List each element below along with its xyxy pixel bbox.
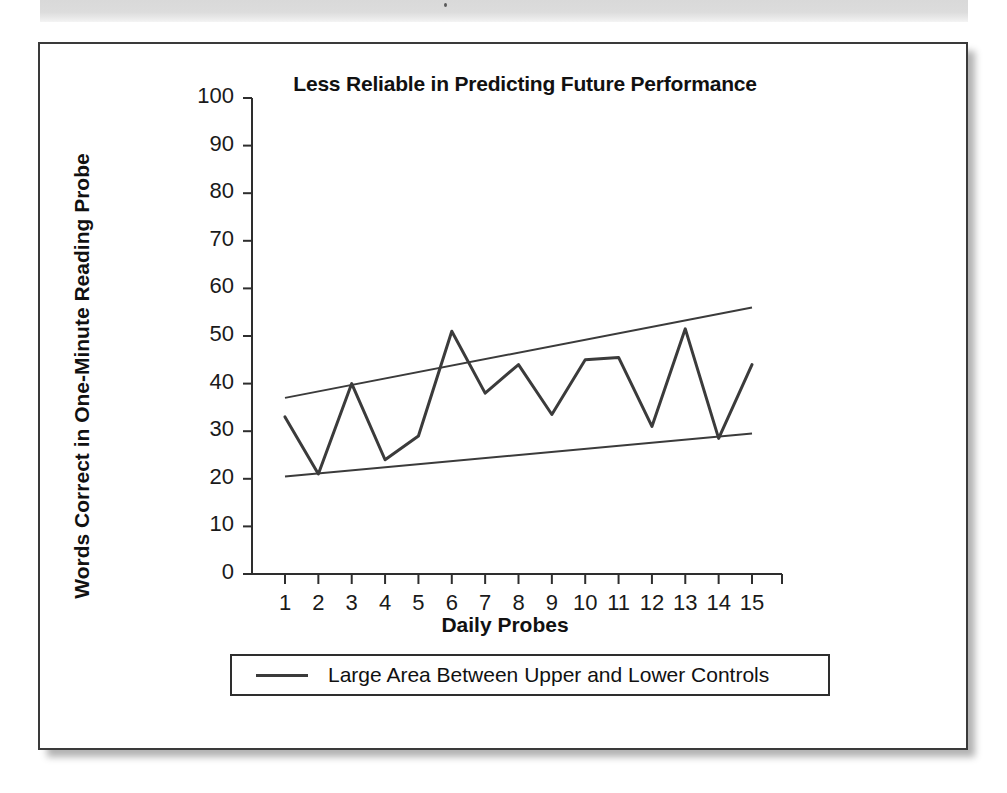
y-tick-label: 50	[174, 321, 234, 347]
axis-group	[252, 98, 782, 574]
y-axis-title: Words Correct in One-Minute Reading Prob…	[70, 126, 94, 626]
legend-line-swatch-icon	[256, 674, 308, 677]
y-tick-label: 40	[174, 369, 234, 395]
scan-speck	[444, 3, 447, 7]
legend-entry: Large Area Between Upper and Lower Contr…	[232, 656, 828, 694]
legend-box: Large Area Between Upper and Lower Contr…	[230, 654, 830, 696]
y-tick-label: 80	[174, 178, 234, 204]
data-series-line	[285, 329, 752, 474]
tick-marks-group	[243, 98, 782, 584]
figure-frame: Less Reliable in Predicting Future Perfo…	[38, 42, 968, 750]
lower-control-line	[285, 434, 752, 477]
y-tick-label: 10	[174, 511, 234, 537]
y-tick-label: 60	[174, 273, 234, 299]
y-tick-label: 90	[174, 131, 234, 157]
y-tick-label: 30	[174, 416, 234, 442]
y-tick-label: 100	[174, 83, 234, 109]
upper-control-line	[285, 307, 752, 397]
legend-label: Large Area Between Upper and Lower Contr…	[328, 663, 769, 687]
y-tick-label: 20	[174, 464, 234, 490]
plot-area: Less Reliable in Predicting Future Perfo…	[40, 44, 970, 752]
x-axis-title: Daily Probes	[40, 613, 970, 637]
y-tick-label: 70	[174, 226, 234, 252]
data-line-group	[285, 329, 752, 474]
y-tick-label: 0	[174, 559, 234, 585]
scan-artifact-band	[40, 0, 968, 22]
x-tick-label: 15	[732, 590, 772, 616]
